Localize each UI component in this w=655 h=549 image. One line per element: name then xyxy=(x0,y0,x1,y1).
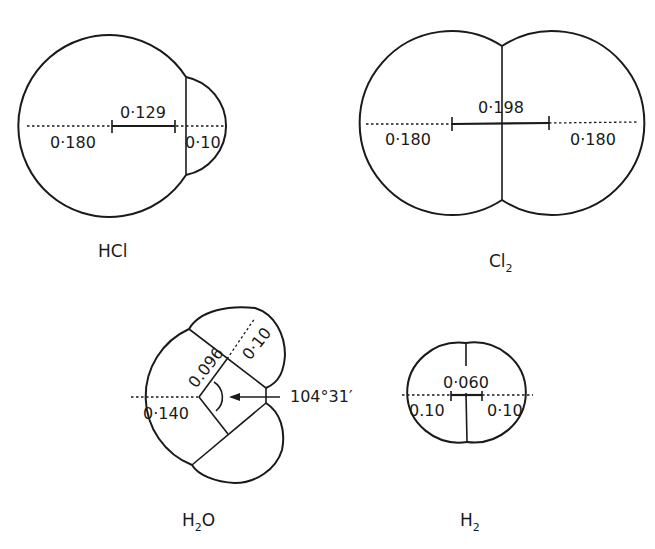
h2-name: H2 xyxy=(460,510,480,534)
hcl-model: 0·129 0·180 0·10 HCl xyxy=(18,35,226,261)
h2o-o-radius-label: 0·140 xyxy=(143,404,189,423)
h2o-h-lower-sphere xyxy=(192,403,283,483)
h2-right-sphere xyxy=(466,342,526,442)
h2o-lower-contact-chord xyxy=(192,403,266,465)
h2-model: 0·060 0.10 0·10 H2 xyxy=(402,342,533,534)
h2-contact-chord-bottom xyxy=(466,393,467,442)
hcl-cl-radius-label: 0·180 xyxy=(50,133,96,152)
arrowhead-icon xyxy=(229,393,240,401)
h2-bond-length-label: 0·060 xyxy=(443,373,489,392)
h2o-h-radius-label: 0·10 xyxy=(238,324,275,364)
cl2-bond-length-label: 0·198 xyxy=(478,98,524,117)
h2-left-sphere xyxy=(407,343,467,443)
h2-right-radius-label: 0·10 xyxy=(487,401,523,420)
h2o-bond-angle-arc xyxy=(214,382,222,411)
cl2-right-radius-label: 0·180 xyxy=(570,130,616,149)
hcl-bond-length-label: 0·129 xyxy=(120,103,166,122)
hcl-name: HCl xyxy=(98,241,127,261)
cl2-bond-line xyxy=(452,123,549,124)
h2o-lower-bond xyxy=(199,397,228,434)
h2o-model: 0.096 0·10 0·140 104°31′ H2O xyxy=(131,307,353,534)
cl2-name: Cl2 xyxy=(489,251,513,275)
molecular-models-figure: 0·129 0·180 0·10 HCl 0·198 0·180 0·180 C… xyxy=(0,0,655,549)
h2o-bond-angle-label: 104°31′ xyxy=(290,387,353,406)
cl2-left-radius-label: 0·180 xyxy=(385,130,431,149)
h2o-name: H2O xyxy=(182,510,215,534)
h2-left-radius-label: 0.10 xyxy=(409,401,445,420)
hcl-h-radius-label: 0·10 xyxy=(185,133,221,152)
cl2-model: 0·198 0·180 0·180 Cl2 xyxy=(360,31,645,275)
cl2-axis-right xyxy=(549,122,638,123)
